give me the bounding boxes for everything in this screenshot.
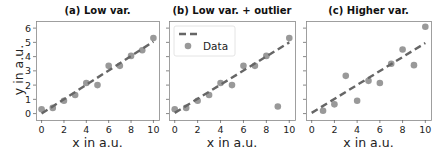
x-tick-label: 6 bbox=[240, 124, 246, 135]
data-point bbox=[286, 35, 293, 42]
x-tick-label: 0 bbox=[172, 124, 178, 135]
x-tick-label: 0 bbox=[39, 124, 45, 135]
x-tick-label: 4 bbox=[354, 124, 360, 135]
x-tick-label: 10 bbox=[147, 124, 159, 135]
data-point bbox=[331, 101, 338, 108]
data-point bbox=[229, 82, 236, 89]
legend: Data bbox=[174, 26, 235, 56]
y-tick-label: 6 bbox=[25, 23, 31, 34]
x-tick-label: 2 bbox=[61, 124, 67, 135]
x-tick-label: 10 bbox=[419, 124, 431, 135]
fit-line bbox=[42, 42, 154, 114]
x-axis-label: x in a.u. bbox=[72, 135, 122, 150]
data-point bbox=[399, 46, 406, 53]
x-axis-label: x in a.u. bbox=[207, 135, 257, 150]
legend-data-label: Data bbox=[203, 40, 228, 52]
x-axis-label: x in a.u. bbox=[343, 135, 393, 150]
data-point bbox=[275, 103, 282, 110]
fit-line bbox=[312, 43, 426, 113]
legend-data-marker-icon bbox=[185, 43, 192, 50]
x-tick-label: 8 bbox=[400, 124, 406, 135]
panel-a: (a) Low var.02468100123456x in a.u. bbox=[25, 5, 160, 150]
x-tick-label: 2 bbox=[331, 124, 337, 135]
x-tick-label: 6 bbox=[377, 124, 383, 135]
panel-c: (c) Higher var.0246810x in a.u. bbox=[303, 5, 432, 150]
x-tick-label: 0 bbox=[309, 124, 315, 135]
x-tick-label: 2 bbox=[195, 124, 201, 135]
data-point bbox=[422, 23, 429, 30]
panel-b: (b) Low var. + outlier0246810x in a.u.Da… bbox=[166, 5, 296, 150]
data-point bbox=[354, 97, 361, 104]
y-tick-label: 0 bbox=[25, 108, 31, 119]
x-tick-label: 10 bbox=[283, 124, 295, 135]
x-tick-label: 4 bbox=[218, 124, 224, 135]
figure: (a) Low var.02468100123456x in a.u.(b) L… bbox=[0, 0, 442, 158]
data-point bbox=[94, 82, 101, 89]
x-tick-label: 8 bbox=[128, 124, 134, 135]
y-axis-label: y in a.u. bbox=[11, 45, 26, 95]
panel-title: (a) Low var. bbox=[65, 5, 131, 16]
x-tick-label: 8 bbox=[263, 124, 269, 135]
data-point bbox=[150, 35, 157, 42]
data-point bbox=[320, 107, 327, 114]
panel-title: (b) Low var. + outlier bbox=[173, 5, 292, 16]
data-point bbox=[342, 73, 349, 80]
data-point bbox=[377, 80, 384, 87]
x-tick-label: 6 bbox=[106, 124, 112, 135]
data-point bbox=[411, 62, 418, 69]
panel-title: (c) Higher var. bbox=[328, 5, 408, 16]
x-tick-label: 4 bbox=[83, 124, 89, 135]
